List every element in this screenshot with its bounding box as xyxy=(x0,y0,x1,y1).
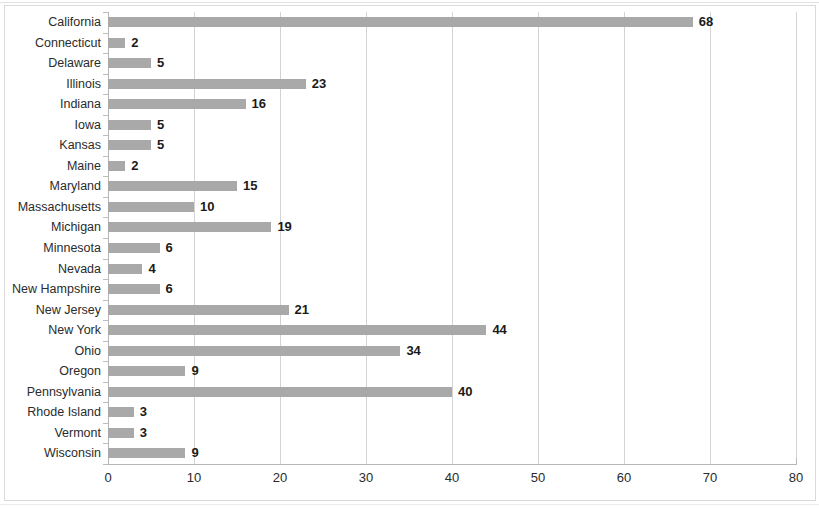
y-tick-label: Indiana xyxy=(1,94,101,115)
bar-row: 2 xyxy=(108,33,796,54)
bar-row: 16 xyxy=(108,94,796,115)
x-axis-line xyxy=(108,464,796,465)
bar-value-label: 9 xyxy=(191,443,198,463)
bar xyxy=(108,38,125,48)
y-tick-label: Ohio xyxy=(1,341,101,362)
bar-value-label: 2 xyxy=(131,156,138,176)
bar-row: 68 xyxy=(108,12,796,33)
x-tick-label: 30 xyxy=(346,470,386,485)
x-tick-label: 20 xyxy=(260,470,300,485)
y-tick-label: Rhode Island xyxy=(1,402,101,423)
x-tick-label: 10 xyxy=(174,470,214,485)
bar-value-label: 10 xyxy=(200,197,214,217)
bar-value-label: 5 xyxy=(157,53,164,73)
bar-chart: CaliforniaConnecticutDelawareIllinoisInd… xyxy=(0,0,819,508)
y-tick-label: Massachusetts xyxy=(1,197,101,218)
bar xyxy=(108,222,271,232)
y-tick-label: Minnesota xyxy=(1,238,101,259)
y-tick-label: Connecticut xyxy=(1,33,101,54)
bar-row: 9 xyxy=(108,361,796,382)
bar-row: 19 xyxy=(108,217,796,238)
y-axis-labels: CaliforniaConnecticutDelawareIllinoisInd… xyxy=(0,12,101,464)
bar-value-label: 5 xyxy=(157,115,164,135)
bar xyxy=(108,387,452,397)
bar-value-label: 3 xyxy=(140,423,147,443)
plot-area: 68252316552151019646214434940339 xyxy=(108,12,796,464)
bar-row: 3 xyxy=(108,402,796,423)
bar-value-label: 2 xyxy=(131,33,138,53)
bar xyxy=(108,366,185,376)
x-tick-label: 80 xyxy=(776,470,816,485)
bar xyxy=(108,428,134,438)
bar-value-label: 4 xyxy=(148,259,155,279)
bar-value-label: 21 xyxy=(295,300,309,320)
bar-row: 40 xyxy=(108,382,796,403)
x-tick-label: 70 xyxy=(690,470,730,485)
bar-value-label: 6 xyxy=(166,279,173,299)
bar xyxy=(108,305,289,315)
bar-value-label: 68 xyxy=(699,12,713,32)
bar-value-label: 16 xyxy=(252,94,266,114)
bar-row: 23 xyxy=(108,74,796,95)
scan-edge-bottom xyxy=(0,504,819,505)
y-tick-label: Pennsylvania xyxy=(1,382,101,403)
y-tick-label: Wisconsin xyxy=(1,443,101,464)
bar xyxy=(108,264,142,274)
y-tick-label: New Hampshire xyxy=(1,279,101,300)
bar xyxy=(108,407,134,417)
bar xyxy=(108,284,160,294)
x-axis-cap-80 xyxy=(796,458,797,465)
y-tick-label: New Jersey xyxy=(1,300,101,321)
bar-row: 3 xyxy=(108,423,796,444)
bar-row: 34 xyxy=(108,341,796,362)
x-tick-label: 0 xyxy=(88,470,128,485)
y-tick-label: Maine xyxy=(1,156,101,177)
y-tick-label: California xyxy=(1,12,101,33)
y-tick-label: New York xyxy=(1,320,101,341)
bar-row: 6 xyxy=(108,238,796,259)
x-tick-label: 60 xyxy=(604,470,644,485)
bar-row: 2 xyxy=(108,156,796,177)
bar-row: 15 xyxy=(108,176,796,197)
y-tick-label: Kansas xyxy=(1,135,101,156)
bar xyxy=(108,181,237,191)
bar-value-label: 6 xyxy=(166,238,173,258)
bar-value-label: 9 xyxy=(191,361,198,381)
bar-row: 10 xyxy=(108,197,796,218)
x-tick-label: 50 xyxy=(518,470,558,485)
bar-row: 5 xyxy=(108,53,796,74)
bar xyxy=(108,140,151,150)
bar xyxy=(108,325,486,335)
x-tick-label: 40 xyxy=(432,470,472,485)
bar-value-label: 3 xyxy=(140,402,147,422)
bar-value-label: 19 xyxy=(277,217,291,237)
y-tick-label: Delaware xyxy=(1,53,101,74)
bar-row: 4 xyxy=(108,259,796,280)
bar xyxy=(108,120,151,130)
bar-row: 6 xyxy=(108,279,796,300)
bar xyxy=(108,79,306,89)
bar xyxy=(108,58,151,68)
bar-row: 44 xyxy=(108,320,796,341)
bar-row: 5 xyxy=(108,135,796,156)
bar xyxy=(108,202,194,212)
bar-value-label: 15 xyxy=(243,176,257,196)
bar-value-label: 23 xyxy=(312,74,326,94)
bar xyxy=(108,17,693,27)
y-tick-label: Michigan xyxy=(1,217,101,238)
y-tick-label: Oregon xyxy=(1,361,101,382)
bar xyxy=(108,99,246,109)
bar-value-label: 44 xyxy=(492,320,506,340)
y-tick-label: Nevada xyxy=(1,259,101,280)
bar-value-label: 40 xyxy=(458,382,472,402)
bar-value-label: 5 xyxy=(157,135,164,155)
bar-row: 5 xyxy=(108,115,796,136)
bar xyxy=(108,448,185,458)
y-tick-label: Vermont xyxy=(1,423,101,444)
bar-row: 21 xyxy=(108,300,796,321)
bar-row: 9 xyxy=(108,443,796,464)
bar xyxy=(108,243,160,253)
y-tick-label: Iowa xyxy=(1,115,101,136)
bar xyxy=(108,161,125,171)
y-tick-label: Maryland xyxy=(1,176,101,197)
